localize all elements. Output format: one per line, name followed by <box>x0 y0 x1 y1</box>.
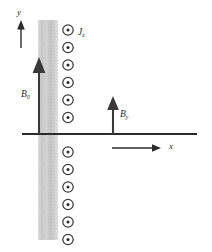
By-field-arrow <box>107 96 119 134</box>
By-label: By <box>120 110 128 121</box>
conducting-slab <box>38 20 58 240</box>
B0-label: B0 <box>21 90 30 101</box>
current-out-of-page-icon <box>63 95 73 105</box>
current-density-subscript: z <box>82 32 84 38</box>
current-out-of-page-icon <box>63 164 73 174</box>
By-subscript: y <box>126 114 129 120</box>
current-out-of-page-icon <box>63 77 73 87</box>
x-direction-arrow <box>112 144 161 152</box>
current-out-of-page-icon <box>63 42 73 52</box>
B0-subscript: 0 <box>27 94 30 100</box>
current-out-of-page-icon <box>63 217 73 227</box>
current-out-of-page-icon <box>63 60 73 70</box>
y-axis-arrow <box>17 20 25 48</box>
diagram-vector-layer <box>0 0 212 252</box>
current-out-of-page-icon <box>63 25 73 35</box>
current-out-of-page-icon <box>63 234 73 244</box>
current-out-of-page-icon <box>63 182 73 192</box>
y-axis-label: y <box>17 8 21 17</box>
current-out-of-page-icon <box>63 199 73 209</box>
current-out-of-page-icon <box>63 147 73 157</box>
physics-diagram-canvas: y x Jz B0 By <box>0 0 212 252</box>
x-axis-label: x <box>169 142 173 151</box>
current-density-label: Jz <box>78 28 85 39</box>
current-out-of-page-icon <box>63 112 73 122</box>
